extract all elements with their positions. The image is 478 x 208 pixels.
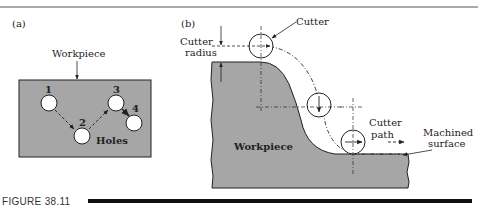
hole-1	[41, 95, 57, 111]
cutter-label: Cutter	[296, 16, 329, 27]
hole-number-2: 2	[79, 117, 86, 128]
hole-3	[108, 95, 124, 111]
cutter-radius-label-line2: radius	[185, 47, 217, 58]
hole-number-4: 4	[132, 103, 139, 114]
panel-b-label: (b)	[181, 18, 195, 29]
panel-a: (a) Workpiece 1 2 3 4 Holes	[12, 18, 151, 157]
hole-4	[126, 115, 142, 131]
cutter-path-label-line1: Cutter	[369, 117, 402, 128]
hole-number-1: 1	[45, 84, 52, 95]
panel-a-label: (a)	[12, 18, 26, 29]
workpiece-label-b: Workpiece	[233, 141, 293, 152]
figure-diagram: (a) Workpiece 1 2 3 4 Holes (b) Workpiec…	[0, 0, 478, 208]
hole-2	[74, 128, 90, 144]
cutter-path-label-line2: path	[371, 129, 394, 140]
cutter-pointer	[272, 22, 296, 38]
machined-surface-label-line1: Machined	[423, 127, 474, 138]
machined-surface-label-line2: surface	[428, 138, 466, 149]
figure-caption: FIGURE 38.11	[2, 196, 71, 207]
cutter-radius-label-line1: Cutter	[180, 36, 213, 47]
machined-surface-pointer	[403, 150, 432, 155]
caption-rule	[88, 199, 472, 203]
workpiece-label-a: Workpiece	[52, 48, 106, 59]
panel-b: (b) Workpiece Cutter Cutter radiu	[180, 16, 474, 188]
hole-number-3: 3	[113, 84, 120, 95]
holes-label: Holes	[96, 135, 128, 146]
